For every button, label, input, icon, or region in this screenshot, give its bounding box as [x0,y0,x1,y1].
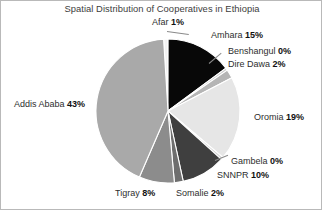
slice-label-addis-ababa-name: Addis Ababa [14,99,65,109]
slice-label-afar-value: 1% [171,17,184,27]
slice-label-snnpr-value: 10% [251,170,269,180]
slice-label-gambela: Gambela 0% [231,156,283,167]
slice-label-afar-name: Afar [152,17,169,27]
slice-label-snnpr-name: SNNPR [217,170,249,180]
slice-label-dire-dawa-name: Dire Dawa [228,59,270,69]
slice-label-oromia: Oromia 19% [254,112,304,123]
slice-label-tigray-name: Tigray [115,188,140,198]
slice-label-tigray-value: 8% [142,188,155,198]
slice-label-benshangul: Benshangul 0% [228,46,291,57]
slice-label-amhara-name: Amhara [211,30,243,40]
slice-label-somalie: Somalie 2% [176,188,224,199]
slice-label-afar: Afar 1% [152,17,184,28]
slice-label-addis-ababa: Addis Ababa 43% [14,99,85,110]
slice-label-oromia-value: 19% [286,112,304,122]
slice-label-gambela-value: 0% [270,156,283,166]
slice-label-somalie-name: Somalie [176,188,209,198]
pie-chart-figure: Spatial Distribution of Cooperatives in … [0,0,322,210]
slice-label-tigray: Tigray 8% [115,188,155,199]
slice-label-addis-ababa-value: 43% [67,99,85,109]
slice-label-oromia-name: Oromia [254,112,284,122]
slice-label-dire-dawa-value: 2% [273,59,286,69]
slice-label-somalie-value: 2% [211,188,224,198]
slice-label-amhara-value: 15% [245,30,263,40]
slice-label-benshangul-value: 0% [278,46,291,56]
slice-label-amhara: Amhara 15% [211,30,263,41]
slice-label-snnpr: SNNPR 10% [217,170,269,181]
slice-label-dire-dawa: Dire Dawa 2% [228,59,286,70]
slice-label-benshangul-name: Benshangul [228,46,276,56]
slice-label-gambela-name: Gambela [231,156,268,166]
